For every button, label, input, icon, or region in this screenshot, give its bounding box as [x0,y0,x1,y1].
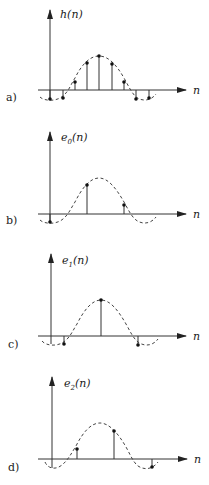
x-axis-label: n [193,84,200,97]
stems [48,54,151,101]
polyphase-decomposition-figure: h(n) n a) e0(n) n b) e [0,0,209,485]
x-axis-label: n [193,330,200,343]
y-axis-label: h(n) [60,8,83,21]
envelope-curve [40,178,156,223]
x-axis-label: n [194,453,201,466]
stems [48,183,126,224]
envelope-curve [40,56,156,100]
panel-a: h(n) n a) [6,8,200,104]
panel-label: a) [6,91,17,104]
panel-label: c) [8,338,18,351]
y-axis-label: e0(n) [61,131,88,146]
panel-b: e0(n) n b) [6,131,200,227]
y-axis-label: e1(n) [62,254,89,269]
x-axis-label: n [193,208,200,221]
stems [75,429,154,469]
envelope-curve [45,423,158,469]
panel-label: d) [8,461,19,474]
y-axis-label: e2(n) [64,377,91,392]
panel-label: b) [6,214,17,227]
envelope-curve [42,300,158,345]
panel-d: e2(n) n d) [8,377,201,474]
panel-c: e1(n) n c) [8,254,200,351]
stems [62,298,140,347]
